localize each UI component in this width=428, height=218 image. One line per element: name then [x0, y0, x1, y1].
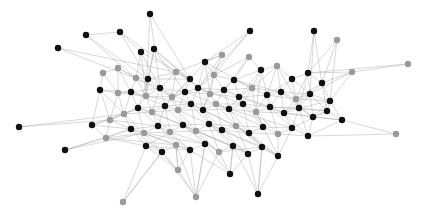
graph-node[interactable] [100, 70, 106, 76]
graph-node[interactable] [107, 117, 113, 123]
graph-node[interactable] [216, 149, 222, 155]
node-layer [16, 11, 411, 205]
graph-node[interactable] [175, 107, 181, 113]
graph-node[interactable] [311, 28, 317, 34]
graph-node[interactable] [267, 104, 273, 110]
graph-node[interactable] [188, 101, 194, 107]
graph-node[interactable] [230, 143, 236, 149]
graph-node[interactable] [187, 76, 193, 82]
graph-node[interactable] [89, 122, 95, 128]
graph-edge [216, 104, 263, 127]
graph-node[interactable] [16, 124, 22, 130]
graph-node[interactable] [307, 91, 313, 97]
graph-node[interactable] [226, 106, 232, 112]
graph-node[interactable] [202, 141, 208, 147]
graph-node[interactable] [240, 101, 246, 107]
graph-node[interactable] [289, 125, 295, 131]
graph-node[interactable] [293, 96, 299, 102]
graph-node[interactable] [233, 123, 239, 129]
graph-node[interactable] [167, 129, 173, 135]
graph-node[interactable] [145, 76, 151, 82]
graph-node[interactable] [245, 151, 251, 157]
graph-node[interactable] [103, 135, 109, 141]
graph-node[interactable] [133, 75, 139, 81]
graph-node[interactable] [62, 147, 68, 153]
graph-node[interactable] [149, 109, 155, 115]
graph-node[interactable] [219, 127, 225, 133]
graph-node[interactable] [202, 59, 208, 65]
graph-node[interactable] [231, 77, 237, 83]
graph-node[interactable] [236, 94, 242, 100]
graph-node[interactable] [211, 72, 217, 78]
graph-node[interactable] [274, 63, 280, 69]
graph-node[interactable] [121, 111, 127, 117]
graph-node[interactable] [162, 103, 168, 109]
graph-node[interactable] [159, 149, 165, 155]
graph-node[interactable] [157, 85, 163, 91]
graph-node[interactable] [246, 130, 252, 136]
graph-node[interactable] [258, 67, 264, 73]
graph-node[interactable] [83, 32, 89, 38]
graph-node[interactable] [324, 108, 330, 114]
graph-node[interactable] [120, 199, 126, 205]
graph-node[interactable] [275, 153, 281, 159]
graph-node[interactable] [155, 123, 161, 129]
graph-node[interactable] [319, 80, 325, 86]
graph-node[interactable] [289, 76, 295, 82]
graph-node[interactable] [187, 147, 193, 153]
graph-node[interactable] [143, 143, 149, 149]
graph-node[interactable] [264, 92, 270, 98]
graph-node[interactable] [296, 105, 302, 111]
graph-node[interactable] [339, 117, 345, 123]
graph-node[interactable] [193, 128, 199, 134]
graph-node[interactable] [143, 93, 149, 99]
graph-node[interactable] [117, 29, 123, 35]
graph-node[interactable] [128, 126, 134, 132]
graph-node[interactable] [275, 131, 281, 137]
graph-node[interactable] [253, 109, 259, 115]
graph-node[interactable] [193, 194, 199, 200]
graph-node[interactable] [213, 101, 219, 107]
graph-node[interactable] [195, 85, 201, 91]
graph-node[interactable] [207, 91, 213, 97]
graph-node[interactable] [227, 171, 233, 177]
graph-node[interactable] [97, 87, 103, 93]
graph-node[interactable] [206, 121, 212, 127]
graph-node[interactable] [334, 37, 340, 43]
graph-node[interactable] [278, 89, 284, 95]
graph-node[interactable] [260, 124, 266, 130]
graph-node[interactable] [151, 46, 157, 52]
graph-node[interactable] [175, 167, 181, 173]
graph-node[interactable] [246, 54, 252, 60]
graph-node[interactable] [221, 87, 227, 93]
graph-node[interactable] [141, 130, 147, 136]
graph-node[interactable] [180, 122, 186, 128]
graph-node[interactable] [305, 70, 311, 76]
graph-node[interactable] [200, 107, 206, 113]
graph-node[interactable] [349, 69, 355, 75]
graph-node[interactable] [259, 144, 265, 150]
graph-node[interactable] [393, 131, 399, 137]
graph-node[interactable] [305, 133, 311, 139]
graph-edge [146, 96, 191, 104]
graph-node[interactable] [405, 61, 411, 67]
graph-node[interactable] [182, 89, 188, 95]
graph-node[interactable] [255, 191, 261, 197]
graph-node[interactable] [169, 94, 175, 100]
graph-node[interactable] [327, 98, 333, 104]
graph-node[interactable] [173, 142, 179, 148]
graph-edge [196, 152, 219, 197]
graph-node[interactable] [55, 45, 61, 51]
graph-node[interactable] [219, 52, 225, 58]
graph-node[interactable] [173, 69, 179, 75]
graph-node[interactable] [115, 90, 121, 96]
graph-node[interactable] [247, 28, 253, 34]
graph-node[interactable] [281, 110, 287, 116]
graph-node[interactable] [128, 89, 134, 95]
graph-node[interactable] [310, 114, 316, 120]
graph-node[interactable] [249, 85, 255, 91]
graph-node[interactable] [147, 11, 153, 17]
graph-node[interactable] [138, 49, 144, 55]
graph-node[interactable] [115, 65, 121, 71]
graph-node[interactable] [135, 105, 141, 111]
